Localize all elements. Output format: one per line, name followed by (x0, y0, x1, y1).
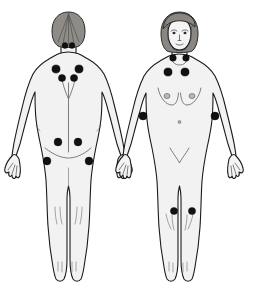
tender-point-trapezius-right[interactable]: Upper trapezius (right) (75, 65, 83, 73)
tender-point-medial-knee-left[interactable]: Medial knee (left) (170, 207, 177, 214)
anterior-right-nipple (189, 93, 195, 98)
anterior-navel (178, 120, 181, 123)
tender-point-occiput-left[interactable]: Occiput (left) (62, 43, 68, 49)
tender-point-greater-trochanter-right[interactable]: Greater trochanter (right) (85, 157, 93, 165)
tender-point-occiput-right[interactable]: Occiput (right) (69, 43, 75, 49)
tender-point-lateral-epicondyle-right[interactable]: Lateral epicondyle (right) (211, 112, 219, 120)
tender-point-gluteal-left[interactable]: Gluteal (left) (54, 138, 62, 146)
tender-point-medial-knee-right[interactable]: Medial knee (right) (188, 207, 195, 214)
tender-point-trapezius-left[interactable]: Upper trapezius (left) (52, 65, 60, 73)
tender-point-supraspinatus-right[interactable]: Supraspinatus (right) (70, 74, 77, 81)
tender-point-lateral-epicondyle-left[interactable]: Lateral epicondyle (left) (139, 112, 147, 120)
anterior-right-eye (184, 32, 187, 34)
tender-point-low-cervical-right[interactable]: Low cervical (right) (183, 55, 190, 62)
tender-point-second-rib-right[interactable]: Second rib (right) (181, 68, 189, 76)
tender-point-gluteal-right[interactable]: Gluteal (right) (74, 138, 82, 146)
tender-points-diagram: Occiput (left)Occiput (right)Upper trape… (0, 0, 260, 289)
tender-point-greater-trochanter-left[interactable]: Greater trochanter (left) (43, 157, 51, 165)
anterior-left-nipple (164, 93, 170, 98)
anterior-left-eye (173, 32, 176, 34)
tender-point-low-cervical-left[interactable]: Low cervical (left) (170, 55, 177, 62)
tender-point-supraspinatus-left[interactable]: Supraspinatus (left) (58, 74, 65, 81)
tender-point-second-rib-left[interactable]: Second rib (left) (164, 68, 172, 76)
